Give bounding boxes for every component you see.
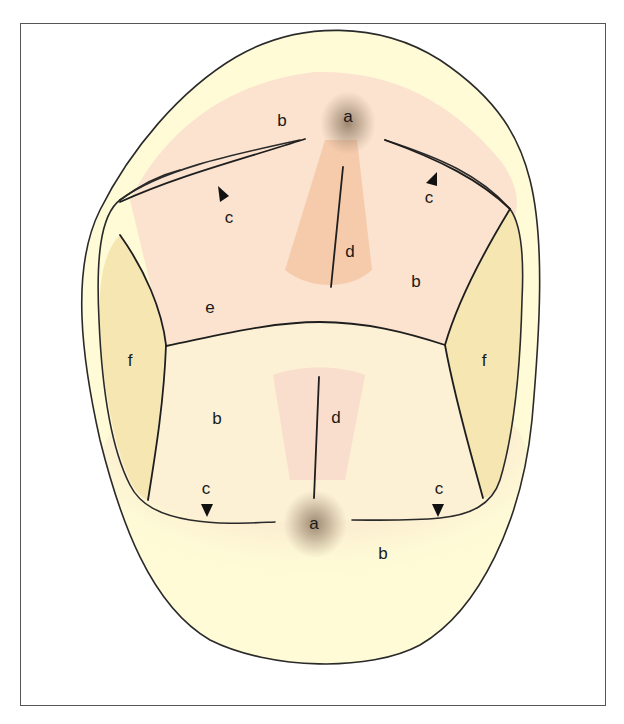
label-marginal-right: f (482, 351, 487, 370)
label-fossa-top: a (343, 107, 353, 126)
label-arrow-top-right: c (425, 188, 434, 207)
label-ridge-top: d (345, 242, 354, 261)
label-transverse: e (205, 298, 214, 317)
label-arrow-top-left: c (225, 208, 234, 227)
label-arrow-bottom-right: c (435, 479, 444, 498)
label-cusp-mid-right: b (411, 272, 420, 291)
label-ridge-bottom: d (331, 408, 340, 427)
label-arrow-bottom-left: c (202, 479, 211, 498)
tooth-diagram: a b c c d b e f f b d c c a b (0, 0, 624, 724)
label-fossa-bottom: a (309, 514, 319, 533)
label-cusp-bottom: b (378, 544, 387, 563)
label-cusp-top-left: b (277, 111, 286, 130)
label-cusp-lower-left: b (212, 409, 221, 428)
label-marginal-left: f (128, 351, 133, 370)
